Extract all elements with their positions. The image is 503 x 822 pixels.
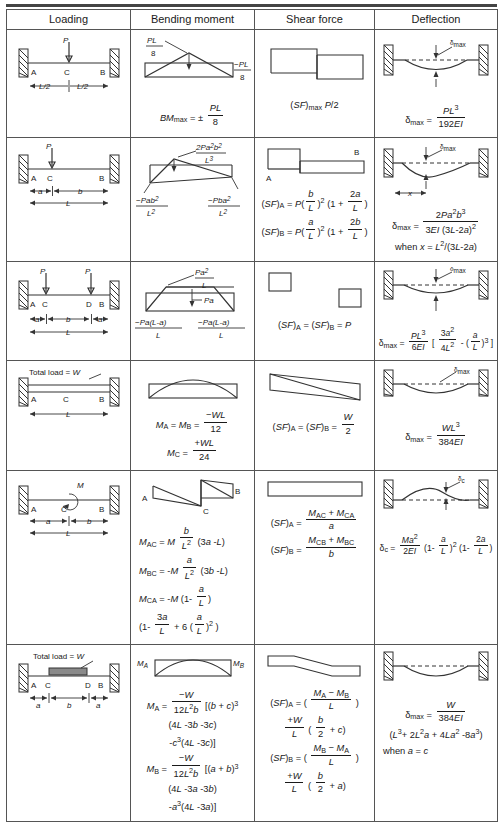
- bending-moment-cell-row5: A C B MAC = M bL2 (3a -L) MBC = -M aL2: [131, 470, 255, 644]
- deflection-condition-row6: when a = c: [377, 745, 495, 758]
- svg-text:−PL: −PL: [234, 60, 248, 69]
- bm-right-label-row3: −Pa(L-a) L: [198, 318, 245, 340]
- deflection-diagram-row5: δc: [378, 476, 494, 526]
- table-row: P A C B L/2 L/2: [7, 30, 498, 138]
- deflection-diagram-row1: δmax: [378, 35, 494, 97]
- load-label-P: P: [46, 143, 52, 151]
- deflection-cell-row6: δmax = W384EI (L3+ 2L2a + 4La2 -8a3) whe…: [375, 644, 498, 822]
- shear-force-diagram-row1: [259, 35, 371, 93]
- dim-label-right: L/2: [77, 82, 89, 91]
- svg-text:L: L: [202, 281, 206, 290]
- svg-text:−Pba2: −Pba2: [208, 195, 231, 205]
- shear-force-diagram-row6: [260, 650, 370, 682]
- bm-label-B: B: [235, 487, 240, 496]
- svg-text:L: L: [219, 331, 223, 340]
- bm-mca-equation-cont-row5: (1- 3aL + 6 (aL)2 ): [133, 612, 252, 637]
- column-header-deflection: Deflection: [375, 10, 498, 30]
- point-label-B: B: [99, 174, 104, 183]
- deflection-diagram-row2: δmax x: [378, 143, 494, 201]
- bending-moment-cell-row4: MA = MB = −WL12 MC = +WL24: [131, 361, 255, 470]
- dim-label-L: L: [66, 328, 70, 337]
- sf-max-equation: (SF)max P/2: [257, 99, 372, 113]
- deflection-diagram-row6: [378, 650, 494, 694]
- deflection-cell-row4: δmax δmax = WL3384EI: [375, 361, 498, 470]
- dim-label-b: b: [87, 517, 92, 526]
- dim-label-L: L: [66, 529, 70, 538]
- bm-mb-equation-cont2-row6: -a3(4L -3a)]: [133, 799, 252, 814]
- bm-mac-equation-row5: MAC = M bL2 (3a -L): [133, 526, 252, 552]
- shear-force-diagram-row2: A B: [258, 143, 372, 183]
- point-label-D: D: [85, 681, 91, 690]
- shear-force-diagram-row3: [259, 267, 371, 313]
- bm-label-MA: MA: [137, 659, 148, 669]
- sf-a-equation-cont-row6: +WL ( b2 + c): [257, 715, 372, 740]
- deflection-cell-row5: δc δc = Ma22EI (1- aL)2 (1- 2aL): [375, 470, 498, 644]
- svg-text:−Pab2: −Pab2: [136, 195, 159, 205]
- svg-text:L2: L2: [219, 208, 227, 218]
- svg-text:δmax: δmax: [454, 366, 470, 375]
- point-label-B: B: [100, 68, 105, 77]
- point-label-A: A: [31, 681, 37, 690]
- point-label-C: C: [42, 300, 48, 309]
- dim-label-a: a: [38, 187, 43, 196]
- bending-moment-diagram-row4: [137, 366, 249, 404]
- svg-text:2Pa2b2: 2Pa2b2: [195, 143, 222, 152]
- bm-mb-equation-cont1-row6: (4L -3a -3b): [133, 783, 252, 796]
- deflection-equation-row6: δmax = W384EI: [377, 700, 495, 725]
- deflection-diagram-row3: δmax: [378, 267, 494, 319]
- sf-label-B: B: [354, 148, 359, 157]
- point-label-A: A: [31, 174, 37, 183]
- point-label-C: C: [64, 68, 70, 77]
- dim-label-b: b: [67, 701, 72, 710]
- deflection-cell-row1: δmax δmax = PL3192EI: [375, 30, 498, 138]
- point-label-B: B: [98, 681, 103, 690]
- deflection-equation-row3: δmax = PL36EI [ 3a24L2 - (aL)3 ]: [377, 325, 495, 353]
- svg-text:8: 8: [151, 49, 156, 58]
- table-row: P P A C D B: [7, 262, 498, 361]
- point-label-C: C: [63, 395, 69, 404]
- delta-max-label: δmax: [450, 39, 466, 48]
- load-label-P2: P: [85, 267, 91, 276]
- point-label-D: D: [86, 300, 92, 309]
- shear-force-cell-row3: (SF)A = (SF)B = P: [255, 262, 375, 361]
- dim-label-a1: a: [36, 701, 41, 710]
- svg-text:8: 8: [240, 73, 245, 82]
- bm-right-label: −PL 8: [234, 60, 251, 82]
- loading-cell-row4: Total load = W A C B: [7, 361, 131, 470]
- total-load-label: Total load = W: [33, 652, 85, 661]
- svg-text:PL: PL: [147, 36, 157, 45]
- loading-cell-row2: P A C B a b: [7, 138, 131, 262]
- table-row: Total load = W A C B: [7, 361, 498, 470]
- loading-diagram-udl: Total load = W A C B: [11, 366, 127, 424]
- point-label-A: A: [31, 395, 37, 404]
- column-header-shear-force: Shear force: [255, 10, 375, 30]
- bm-right-label-row2: −Pba2 L2: [208, 195, 240, 218]
- dim-label-a2: a: [96, 701, 101, 710]
- deflection-condition-row2: when x = L2/(3L-2a): [377, 239, 495, 254]
- point-label-A: A: [31, 68, 37, 77]
- deflection-equation-row4: δmax = WL3384EI: [377, 420, 495, 447]
- point-label-B: B: [99, 505, 104, 514]
- point-label-C: C: [61, 505, 67, 514]
- bm-mca-equation-row5: MCA = -M (1- aL): [133, 584, 252, 609]
- table-row: P A C B a b: [7, 138, 498, 262]
- point-label-C: C: [47, 174, 53, 183]
- svg-text:−Pa(L-a): −Pa(L-a): [198, 318, 230, 327]
- table-row: Total load = W A C D B: [7, 644, 498, 822]
- shear-force-cell-row6: (SF)A = ( MA − MBL ) +WL ( b2 + c) (SF)B…: [255, 644, 375, 822]
- table-header-row: Loading Bending moment Shear force Defle…: [7, 10, 498, 30]
- loading-diagram-central-point-load: P A C B L/2 L/2: [11, 35, 127, 101]
- total-load-label: Total load = W: [29, 368, 81, 377]
- dim-label-L: L: [66, 199, 70, 208]
- point-label-B: B: [99, 395, 104, 404]
- shear-force-diagram-row4: [260, 366, 370, 406]
- deflection-equation-cont-row6: (L3+ 2L2a + 4La2 -8a3): [377, 727, 495, 742]
- point-label-A: A: [31, 505, 37, 514]
- bm-label-A: A: [142, 494, 148, 503]
- column-header-loading: Loading: [7, 10, 131, 30]
- loading-cell-row6: Total load = W A C D B: [7, 644, 131, 822]
- bm-mc-equation-row4: MC = +WL24: [133, 438, 252, 463]
- dim-label-a2: a: [98, 315, 103, 324]
- bm-mbc-equation-row5: MBC = -M aL2 (3b -L): [133, 555, 252, 581]
